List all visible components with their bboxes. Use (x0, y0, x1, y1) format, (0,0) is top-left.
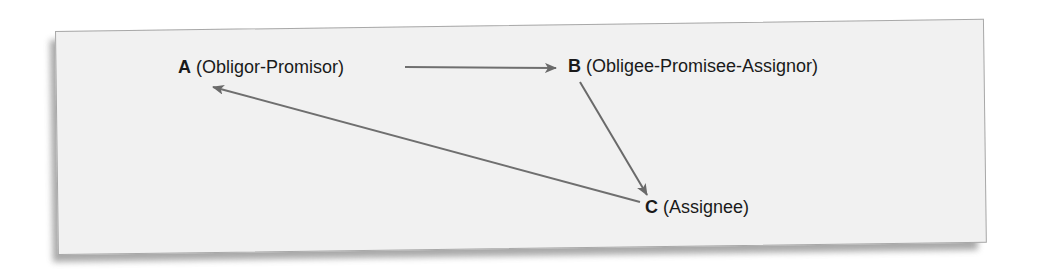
node-b-label: B (Obligee-Promisee-Assignor) (568, 57, 818, 75)
diagram-stage: A (Obligor-Promisor) B (Obligee-Promisee… (0, 0, 1039, 280)
node-b-letter: B (568, 56, 581, 76)
node-c-role: (Assignee) (663, 197, 749, 217)
edge-b-to-c-arrow (580, 82, 647, 195)
node-a-label: A (Obligor-Promisor) (178, 58, 344, 76)
node-a-role: (Obligor-Promisor) (196, 57, 344, 77)
node-c-letter: C (645, 197, 658, 217)
edge-a-to-b-arrow (405, 67, 556, 68)
node-b-role: (Obligee-Promisee-Assignor) (586, 56, 818, 76)
node-c-label: C (Assignee) (645, 198, 749, 216)
node-a-letter: A (178, 57, 191, 77)
edge-c-to-a-arrow (213, 87, 640, 202)
edges-layer (0, 0, 1039, 280)
